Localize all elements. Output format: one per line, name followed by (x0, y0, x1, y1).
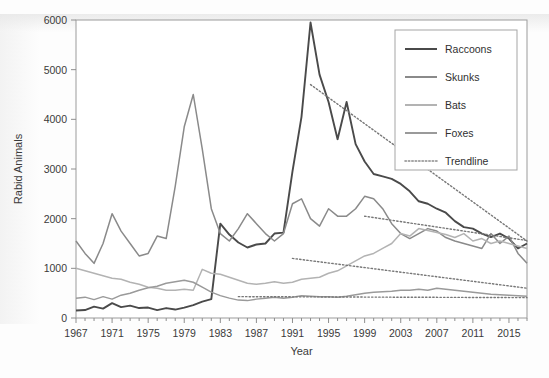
x-tick-label: 2015 (497, 327, 521, 339)
x-tick-label: 1983 (209, 327, 233, 339)
x-axis-title: Year (290, 345, 313, 357)
legend-label-raccoons: Raccoons (445, 43, 492, 55)
y-tick-label: 4000 (44, 113, 68, 125)
chart-page: 0100020003000400050006000 19671971197519… (0, 0, 549, 378)
y-tick-label: 2000 (44, 213, 68, 225)
x-tick-label: 1975 (136, 327, 160, 339)
x-tick-label: 2003 (389, 327, 413, 339)
x-tick-label: 2011 (462, 327, 485, 339)
x-tick-label: 1991 (281, 327, 305, 339)
y-tick-label: 1000 (44, 262, 68, 274)
legend-label-skunks: Skunks (445, 71, 479, 83)
legend-label-bats: Bats (445, 99, 466, 111)
trendline-foxes (238, 297, 527, 298)
y-tick-label: 3000 (44, 163, 68, 175)
legend-label-trendline: Trendline (445, 155, 489, 167)
chart-legend: RaccoonsSkunksBatsFoxesTrendline (395, 30, 517, 170)
x-tick-label: 1979 (173, 327, 197, 339)
x-tick-label: 2007 (425, 327, 449, 339)
x-tick-label: 1999 (353, 327, 377, 339)
x-tick-label: 1967 (64, 327, 88, 339)
y-tick-label: 6000 (44, 14, 68, 26)
legend-label-foxes: Foxes (445, 127, 474, 139)
y-tick-label: 0 (61, 312, 67, 324)
x-tick-label: 1971 (100, 327, 124, 339)
x-tick-label: 1987 (245, 327, 269, 339)
x-axis-ticks: 1967197119751979198319871991199519992003… (64, 318, 527, 339)
y-tick-label: 5000 (44, 64, 68, 76)
rabid-animals-line-chart: 0100020003000400050006000 19671971197519… (0, 0, 549, 378)
y-axis-title: Rabid Animals (12, 133, 24, 204)
x-tick-label: 1995 (317, 327, 341, 339)
y-axis-ticks: 0100020003000400050006000 (44, 14, 76, 324)
